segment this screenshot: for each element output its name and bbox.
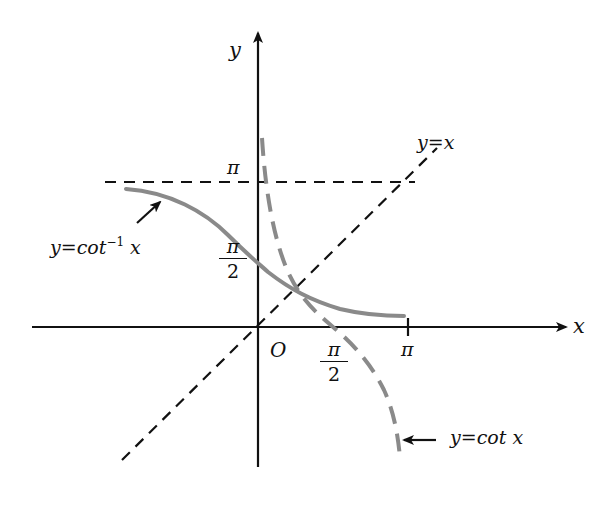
x-tick-pi-label: π	[401, 340, 414, 359]
arccot-label: y=cot−1 x	[50, 236, 141, 257]
cot-label-var: x	[506, 426, 523, 448]
y-tick-pi-half-numerator: π	[219, 237, 247, 259]
curve-arccot	[126, 189, 404, 316]
arccot-label-exponent: −1	[106, 235, 124, 249]
line-y-equals-x	[122, 148, 437, 460]
x-tick-pi-half-label: π 2	[320, 340, 348, 384]
x-tick-pi-half-numerator: π	[320, 340, 348, 362]
y-tick-pi-label: π	[227, 158, 240, 177]
arccot-label-var: x	[124, 236, 141, 258]
diagram-canvas: y x O π π 2 π 2 π y=x y=cot−1 x y=cot x	[0, 0, 615, 505]
curve-cot	[262, 138, 400, 458]
y-tick-pi-half-label: π 2	[219, 237, 247, 281]
x-tick-pi-half-denominator: 2	[320, 362, 348, 384]
identity-line-label: y=x	[417, 133, 454, 152]
y-axis-label: y	[229, 40, 241, 61]
arccot-pointer-arrow	[137, 202, 160, 223]
cot-label: y=cot x	[450, 428, 523, 447]
origin-label: O	[270, 340, 286, 360]
x-axis-label: x	[573, 316, 585, 337]
cot-label-main: y=cot	[450, 426, 506, 448]
arccot-label-main: y=cot	[50, 236, 106, 258]
y-tick-pi-half-denominator: 2	[219, 259, 247, 281]
